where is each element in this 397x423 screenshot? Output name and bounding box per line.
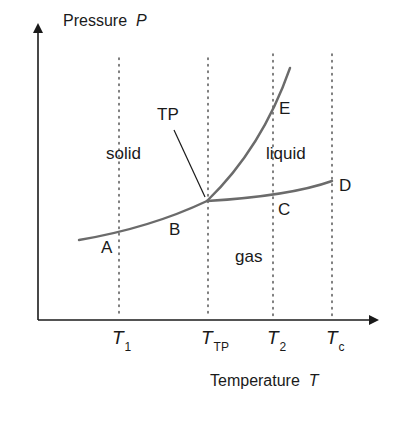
point-tp: TP <box>157 106 179 123</box>
point-d: D <box>339 177 351 194</box>
melting-curve <box>207 68 290 201</box>
tick-t2: T2 <box>267 328 286 353</box>
region-gas: gas <box>235 248 262 265</box>
region-liquid: liquid <box>266 145 306 162</box>
point-b: B <box>169 221 180 238</box>
x-axis-symbol: T <box>309 372 319 389</box>
tick-tc: Tc <box>326 328 345 353</box>
sublimation-curve <box>79 201 207 240</box>
point-e: E <box>279 100 290 117</box>
point-a: A <box>101 239 112 256</box>
vaporization-curve <box>207 181 332 201</box>
axes <box>38 28 374 320</box>
x-axis-title: Temperature T <box>210 373 319 389</box>
y-axis-label: Pressure <box>63 12 127 29</box>
point-c: C <box>278 201 290 218</box>
y-axis-symbol: P <box>136 12 147 29</box>
tick-ttp: TTP <box>201 328 229 353</box>
tick-t1: T1 <box>112 328 131 353</box>
y-axis-title: Pressure P <box>63 13 147 29</box>
temperature-guides <box>119 54 332 318</box>
tp-leader-line <box>174 130 205 197</box>
x-axis-label: Temperature <box>210 372 300 389</box>
region-solid: solid <box>106 145 141 162</box>
phase-diagram <box>0 0 397 423</box>
